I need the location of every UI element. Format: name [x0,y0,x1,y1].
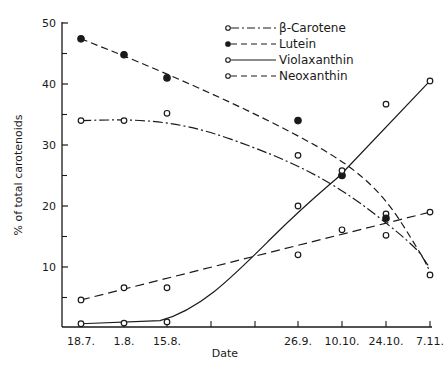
series-violaxanthin [78,78,433,326]
data-point [295,203,301,209]
legend-item: Lutein [226,37,316,51]
x-tick-label: 18.7. [67,335,95,348]
data-point [164,285,170,291]
data-point [164,110,170,116]
data-point [383,215,389,221]
data-point [427,209,433,215]
x-axis-title: Date [212,347,239,360]
legend-label: β-Carotene [279,21,346,35]
data-point [164,75,170,81]
legend-label: Violaxanthin [279,53,354,67]
data-point [295,117,301,123]
x-tick-label: 10.10. [325,335,360,348]
data-point [427,78,433,84]
series-lutein [78,36,430,269]
data-point [78,297,84,303]
legend-item: Neoxanthin [226,69,348,83]
data-point [78,118,84,124]
legend-item: Violaxanthin [226,53,354,67]
x-tick-label: 15.8. [153,335,181,348]
data-point [339,168,345,174]
data-point [164,319,170,325]
legend-label: Lutein [279,37,316,51]
series-carotene [78,110,433,277]
data-point [339,227,345,233]
y-axis-title: % of total carotenoids [12,114,25,235]
x-tick-label: 26.9. [284,335,312,348]
y-tick-label: 40 [42,78,56,91]
legend-label: Neoxanthin [279,69,348,83]
series-neoxanthin [78,209,433,302]
legend: β-CaroteneLuteinViolaxanthinNeoxanthin [226,21,354,83]
legend-item: β-Carotene [226,21,346,35]
data-point [121,285,127,291]
x-tick-label: 24.10. [369,335,404,348]
data-point [121,52,127,58]
y-axis: 1020304050 [42,17,68,327]
data-point [295,252,301,258]
data-point [295,153,301,159]
data-point [383,101,389,107]
data-point [427,272,433,278]
y-tick-label: 30 [42,139,56,152]
plot-area [78,36,433,327]
y-tick-label: 50 [42,17,56,30]
y-tick-label: 10 [42,261,56,274]
data-point [383,232,389,238]
data-point [78,36,84,42]
data-point [121,320,127,326]
y-tick-label: 20 [42,200,56,213]
x-tick-label: 1.8. [114,335,135,348]
data-point [121,118,127,124]
carotenoid-line-chart: 1020304050 18.7.1.8.15.8.26.9.10.10.24.1… [0,0,448,372]
data-point [78,321,84,327]
x-axis: 18.7.1.8.15.8.26.9.10.10.24.10.7.11. [62,321,444,348]
x-tick-label: 7.11. [416,335,444,348]
